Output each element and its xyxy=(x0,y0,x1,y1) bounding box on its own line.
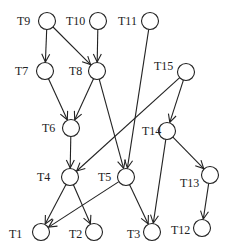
node-label: T12 xyxy=(171,223,190,237)
node-t8: T8 xyxy=(69,63,106,80)
node-t14: T14 xyxy=(142,123,176,140)
node-circle-icon xyxy=(39,13,56,30)
node-circle-icon xyxy=(89,63,106,80)
node-circle-icon xyxy=(90,13,107,30)
nodes-layer: T9T10T11T7T8T15T6T14T4T5T13T1T2T3T12 xyxy=(9,13,219,242)
node-label: T8 xyxy=(69,64,82,78)
edge-t4-to-t2 xyxy=(73,185,90,224)
node-t9: T9 xyxy=(17,13,56,30)
node-circle-icon xyxy=(178,64,195,81)
edge-t9-to-t8 xyxy=(53,27,91,65)
node-t1: T1 xyxy=(9,224,50,242)
edge-t13-to-t12 xyxy=(203,183,208,219)
node-circle-icon xyxy=(63,120,80,137)
edge-t7-to-t6 xyxy=(49,79,68,120)
edge-t14-to-t3 xyxy=(153,139,166,223)
edge-t15-to-t14 xyxy=(170,80,184,122)
node-label: T1 xyxy=(9,227,22,241)
node-label: T15 xyxy=(154,59,173,73)
edge-t5-to-t1 xyxy=(49,182,119,228)
node-label: T2 xyxy=(69,227,82,241)
node-label: T4 xyxy=(37,170,50,184)
node-label: T5 xyxy=(98,170,111,184)
node-t11: T11 xyxy=(118,13,159,30)
node-label: T6 xyxy=(42,121,55,135)
edge-t8-to-t6 xyxy=(75,79,94,120)
edge-t11-to-t5 xyxy=(127,29,148,168)
node-t13: T13 xyxy=(180,167,219,191)
node-t15: T15 xyxy=(154,59,195,81)
node-t3: T3 xyxy=(127,224,161,242)
node-circle-icon xyxy=(194,220,211,237)
node-t7: T7 xyxy=(15,63,54,80)
edge-t14-to-t13 xyxy=(173,137,204,169)
task-graph-diagram: T9T10T11T7T8T15T6T14T4T5T13T1T2T3T12 xyxy=(0,0,228,249)
node-t6: T6 xyxy=(42,120,80,137)
node-circle-icon xyxy=(118,169,135,186)
task-graph-svg: T9T10T11T7T8T15T6T14T4T5T13T1T2T3T12 xyxy=(0,0,228,249)
node-circle-icon xyxy=(142,13,159,30)
edge-t6-to-t4 xyxy=(70,137,71,169)
node-t2: T2 xyxy=(69,224,103,242)
edge-t5-to-t3 xyxy=(130,185,149,224)
node-label: T14 xyxy=(142,124,161,138)
node-circle-icon xyxy=(62,169,79,186)
edge-t10-to-t8 xyxy=(97,30,98,63)
node-circle-icon xyxy=(37,63,54,80)
node-circle-icon xyxy=(202,167,219,184)
node-label: T9 xyxy=(17,14,30,28)
node-circle-icon xyxy=(33,224,50,241)
node-circle-icon xyxy=(144,224,161,241)
node-label: T7 xyxy=(15,64,28,78)
node-label: T3 xyxy=(127,227,140,241)
node-t4: T4 xyxy=(37,169,79,186)
node-t12: T12 xyxy=(171,220,211,238)
edge-t8-to-t5 xyxy=(99,79,123,168)
node-label: T10 xyxy=(66,14,85,28)
node-label: T13 xyxy=(180,176,199,190)
node-circle-icon xyxy=(86,224,103,241)
edge-t9-to-t7 xyxy=(45,30,46,63)
node-t10: T10 xyxy=(66,13,107,30)
node-label: T11 xyxy=(118,14,137,28)
